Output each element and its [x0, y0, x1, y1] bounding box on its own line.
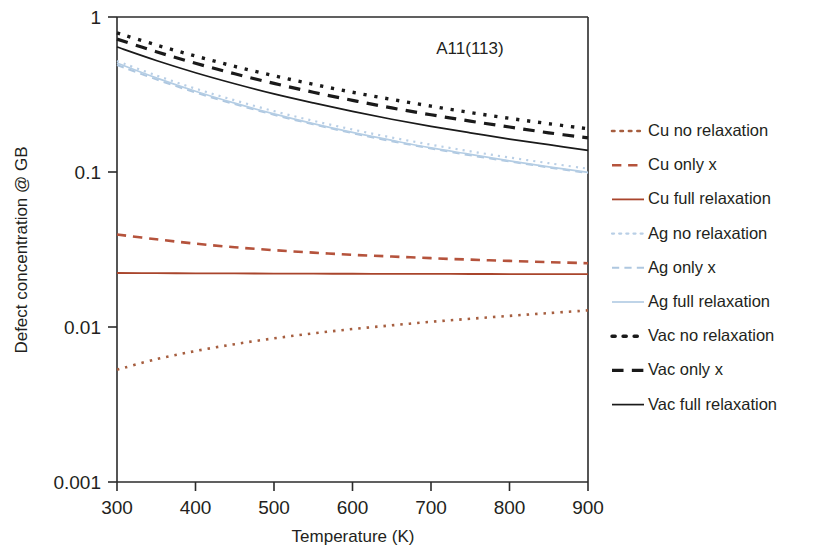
legend-label: Vac no relaxation	[648, 326, 774, 344]
sigma-annotation: Α11(113)	[436, 39, 503, 58]
legend-label: Cu only x	[648, 155, 718, 173]
legend-label: Cu no relaxation	[648, 121, 768, 139]
x-tick-label-300: 300	[101, 497, 133, 518]
x-tick-label-800: 800	[494, 497, 526, 518]
y-tick-label-0.01: 0.01	[64, 317, 101, 338]
y-tick-label-1: 1	[90, 7, 101, 28]
x-tick-label-900: 900	[572, 497, 604, 518]
legend-label: Ag full relaxation	[648, 292, 770, 310]
x-tick-label-700: 700	[415, 497, 447, 518]
y-tick-label-0.001: 0.001	[53, 472, 101, 493]
y-tick-label-0.1: 0.1	[75, 162, 101, 183]
series-line-cu-full-relaxation	[117, 273, 588, 274]
legend-label: Vac only x	[648, 360, 724, 378]
x-tick-label-600: 600	[337, 497, 369, 518]
x-axis-title: Temperature (K)	[292, 527, 415, 546]
legend-label: Vac full relaxation	[648, 395, 777, 413]
legend-label: Cu full relaxation	[648, 189, 771, 207]
y-axis-title: Defect concentration @ GB	[12, 146, 31, 353]
legend-label: Ag only x	[648, 258, 717, 276]
legend-label: Ag no relaxation	[648, 224, 767, 242]
defect-concentration-chart: 1 0.1 0.01 0.001 300 400 500 600 700 800…	[0, 0, 826, 549]
x-tick-label-500: 500	[258, 497, 290, 518]
x-tick-label-400: 400	[180, 497, 212, 518]
